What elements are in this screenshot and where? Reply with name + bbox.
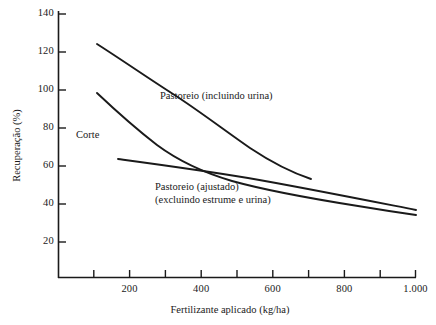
chart-container: 140 120 100 80 60 40 20 200 400 600 800 … [0,0,436,325]
series-line-pastoreio-incluindo [97,44,311,179]
x-axis-title: Fertilizante aplicado (kg/ha) [130,304,330,315]
y-tick-label-120: 120 [20,45,54,56]
series-label-corte: Corte [76,128,99,141]
x-tick-label-400: 400 [176,283,226,294]
y-axis-ticks [59,14,67,242]
chart-plot-area [0,0,436,325]
x-axis-ticks [94,270,416,278]
series-label-pastoreio-incluindo: Pastoreio (incluindo urina) [160,89,273,102]
y-tick-label-20: 20 [20,235,54,246]
y-tick-label-80: 80 [20,121,54,132]
x-tick-label-1000: 1.000 [391,283,436,294]
x-tick-label-200: 200 [105,283,155,294]
y-tick-label-60: 60 [20,159,54,170]
y-axis-title: Recuperação (%) [11,86,22,206]
x-tick-label-600: 600 [248,283,298,294]
y-tick-label-140: 140 [20,7,54,18]
series-label-pastoreio-ajustado: Pastoreio (ajustado) (excluindo estrume … [155,180,271,206]
y-tick-label-40: 40 [20,197,54,208]
series-label-ajustado-line1: Pastoreio (ajustado) [155,181,239,192]
y-tick-label-100: 100 [20,83,54,94]
x-tick-label-800: 800 [319,283,369,294]
series-label-ajustado-line2: (excluindo estrume e urina) [155,193,271,206]
